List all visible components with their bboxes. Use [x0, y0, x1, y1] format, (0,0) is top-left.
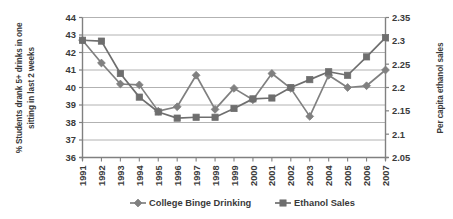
data-point-s2-2006	[363, 54, 369, 60]
legend-item-1[interactable]: College Binge Drinking	[130, 198, 252, 208]
x-axis-tick-label: 1993	[116, 166, 126, 186]
legend-marker-square	[280, 200, 286, 206]
data-point-s2-2001	[269, 95, 275, 101]
left-axis-tick-label: 36	[66, 152, 76, 163]
dual-axis-line-chart: 3637383940414243442.052.12.152.22.252.32…	[0, 0, 453, 219]
data-point-s2-1998	[212, 114, 218, 120]
data-point-s1-1996	[173, 103, 181, 111]
data-point-s2-1996	[174, 115, 180, 121]
x-axis-tick-label: 2004	[324, 165, 334, 186]
data-point-s2-2004	[326, 69, 332, 75]
data-point-s2-2002	[288, 84, 294, 90]
data-point-s2-1992	[98, 38, 104, 44]
left-axis-title-line2: sitting in last 2 weeks	[27, 47, 36, 129]
x-axis-tick-label: 1992	[97, 166, 107, 186]
x-axis-tick-label: 1991	[78, 166, 88, 186]
data-point-s2-1999	[231, 105, 237, 111]
x-axis-tick-label: 1995	[154, 166, 164, 186]
x-axis-tick-label: 1997	[192, 166, 202, 186]
data-point-s2-1995	[155, 109, 161, 115]
data-point-s1-1997	[192, 71, 200, 79]
data-point-s2-1997	[193, 114, 199, 120]
right-axis-tick-label: 2.2	[392, 82, 405, 93]
left-axis-tick-label: 37	[66, 134, 76, 145]
data-point-s2-1994	[136, 94, 142, 100]
legend-item-2[interactable]: Ethanol Sales	[275, 198, 355, 208]
right-axis-tick-label: 2.05	[392, 152, 410, 163]
right-axis-title: Per capita ethanol sales	[436, 42, 445, 133]
right-axis-tick-label: 2.3	[392, 35, 405, 46]
right-axis-tick-label: 2.25	[392, 59, 410, 70]
x-axis-tick-label: 2001	[267, 166, 277, 186]
x-axis-tick-label: 1998	[211, 166, 221, 186]
data-point-s2-2000	[250, 96, 256, 102]
left-axis-tick-label: 38	[66, 117, 76, 128]
chart-container: 3637383940414243442.052.12.152.22.252.32…	[0, 0, 453, 219]
left-axis-tick-label: 44	[66, 12, 77, 23]
data-point-s2-1993	[117, 70, 123, 76]
x-axis-tick-label: 2007	[381, 166, 391, 186]
data-point-s2-2003	[307, 77, 313, 83]
data-point-s2-2005	[345, 72, 351, 78]
legend-marker-diamond	[134, 199, 142, 207]
legend-label: College Binge Drinking	[149, 198, 252, 208]
left-axis-tick-label: 39	[66, 99, 76, 110]
left-axis-tick-label: 40	[66, 82, 76, 93]
data-point-s2-2007	[382, 35, 388, 41]
x-axis-tick-label: 2000	[249, 166, 259, 186]
x-axis-tick-label: 2005	[343, 166, 353, 186]
left-axis-tick-label: 43	[66, 29, 76, 40]
x-axis-tick-label: 1994	[135, 165, 145, 186]
left-axis-title-line1: % Students drank 5+ drinks in one	[15, 22, 24, 153]
right-axis-tick-label: 2.35	[392, 12, 410, 23]
legend-label: Ethanol Sales	[294, 198, 355, 208]
right-axis-tick-label: 2.15	[392, 105, 410, 116]
x-axis-tick-label: 2003	[305, 166, 315, 186]
left-axis-tick-label: 41	[66, 64, 76, 75]
x-axis-tick-label: 1999	[230, 166, 240, 186]
x-axis-tick-label: 2002	[286, 166, 296, 186]
right-axis-tick-label: 2.1	[392, 129, 405, 140]
left-axis-tick-label: 42	[66, 47, 76, 58]
x-axis-tick-label: 2006	[362, 166, 372, 186]
data-point-s2-1991	[79, 37, 85, 43]
x-axis-tick-label: 1996	[173, 166, 183, 186]
